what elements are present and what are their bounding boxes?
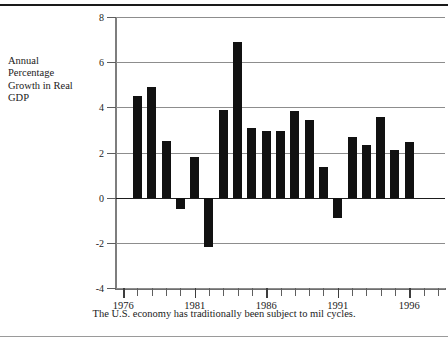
x-tick-1992: [352, 288, 353, 296]
bottom-divider: [0, 336, 448, 337]
x-tick-1987: [281, 288, 282, 296]
x-tick-1986: [266, 288, 267, 298]
bar-1977: [133, 96, 142, 198]
y-tick-8: [107, 17, 116, 18]
chart-caption: The U.S. economy has traditionally been …: [0, 308, 448, 319]
bar-1992: [348, 137, 357, 198]
bar-1995: [390, 150, 399, 197]
y-tick--2: [107, 243, 116, 244]
x-tick-1990: [323, 288, 324, 296]
x-tick-1995: [395, 288, 396, 296]
x-tick-1998: [438, 288, 439, 296]
gridline-y-0: [116, 198, 445, 200]
x-tick-1982: [209, 288, 210, 296]
bar-1980: [176, 198, 185, 209]
bar-1983: [219, 110, 228, 198]
y-axis-label-line-1: Annual: [8, 55, 100, 67]
bar-1994: [376, 117, 385, 197]
x-tick-1980: [180, 288, 181, 296]
y-tick-label-0: 0: [99, 192, 104, 203]
y-tick-2: [107, 153, 116, 154]
x-tick-1997: [424, 288, 425, 296]
gridline-y-4: [116, 107, 445, 108]
y-tick-label-8: 8: [99, 12, 104, 23]
bar-1993: [362, 145, 371, 198]
y-tick-label-2: 2: [99, 147, 104, 158]
y-tick-4: [107, 107, 116, 108]
x-tick-1996: [409, 288, 410, 298]
bar-1989: [305, 120, 314, 198]
top-divider: [0, 4, 448, 6]
x-tick-1978: [152, 288, 153, 296]
bar-1982: [204, 198, 213, 248]
x-tick-1979: [166, 288, 167, 296]
y-axis-label: Annual Percentage Growth in Real GDP: [8, 55, 100, 105]
y-tick--4: [107, 288, 116, 289]
bar-1988: [290, 111, 299, 198]
bar-1979: [162, 141, 171, 197]
x-tick-1991: [338, 288, 339, 298]
x-tick-1976: [123, 288, 124, 298]
bar-1981: [190, 157, 199, 198]
y-axis-label-line-4: GDP: [8, 92, 100, 104]
bar-1984: [233, 42, 242, 198]
x-tick-1983: [223, 288, 224, 296]
bar-1978: [147, 87, 156, 198]
bar-1986: [262, 131, 271, 198]
chart-page: Annual Percentage Growth in Real GDP 864…: [0, 0, 448, 339]
y-axis-label-line-2: Percentage: [8, 67, 100, 79]
x-tick-1993: [366, 288, 367, 296]
x-tick-1984: [238, 288, 239, 296]
y-tick-label--4: -4: [96, 283, 104, 294]
gridline-y-8: [116, 17, 445, 18]
x-tick-1989: [309, 288, 310, 296]
bar-1987: [276, 131, 285, 198]
y-axis-label-line-3: Growth in Real: [8, 80, 100, 92]
y-tick-label-6: 6: [99, 57, 104, 68]
x-tick-1994: [381, 288, 382, 296]
bar-1990: [319, 167, 328, 197]
y-tick-label--2: -2: [96, 237, 104, 248]
y-tick-0: [107, 198, 116, 199]
x-tick-1985: [252, 288, 253, 296]
x-tick-1977: [137, 288, 138, 296]
x-tick-1981: [195, 288, 196, 298]
gridline-y--2: [116, 243, 445, 244]
bar-1985: [247, 128, 256, 198]
x-tick-1988: [295, 288, 296, 296]
plot-area: 86420-2-419761981198619911996: [116, 17, 445, 288]
y-tick-6: [107, 62, 116, 63]
bar-1991: [333, 198, 342, 218]
gridline-y-6: [116, 62, 445, 63]
y-tick-label-4: 4: [99, 102, 104, 113]
bar-1996: [405, 142, 414, 197]
